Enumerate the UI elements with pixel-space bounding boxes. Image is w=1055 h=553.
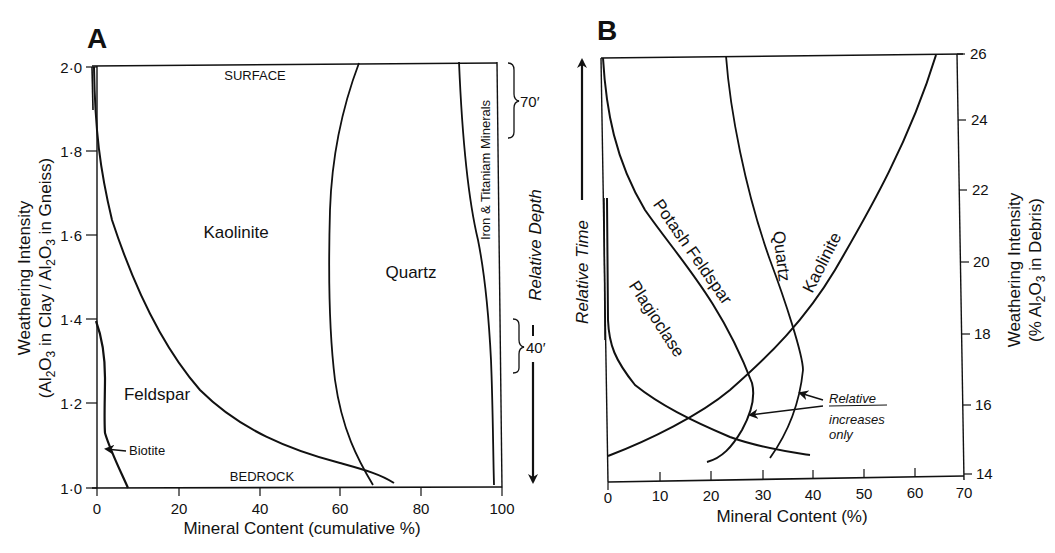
x-tick-label: 30 [755, 486, 772, 503]
y-tick-label: 16 [975, 396, 992, 413]
panel-a-x-axis [92, 487, 502, 488]
y-tick-label: 24 [971, 111, 988, 128]
y-tick-label: 26 [970, 45, 987, 62]
y-axis-title-line1: Weathering Intensity [1005, 192, 1024, 347]
potash-feldspar-label-group: Potash Feldspar [649, 196, 736, 309]
figure-canvas: A 2·0 1·8 1·6 1·4 1·2 1·0 [0, 0, 1055, 553]
plagioclase-label-group: Plagioclase [625, 277, 688, 360]
y-tick-label: 14 [976, 465, 993, 482]
panel-a-x-ticks: 0 20 40 60 80 100 [93, 488, 515, 517]
potash-feldspar-label: Potash Feldspar [649, 196, 736, 309]
y-axis-title-line2: (% Al2O3 in Debris) [1026, 198, 1048, 342]
y-tick-label: 20 [973, 253, 990, 270]
plagioclase-label: Plagioclase [625, 277, 688, 360]
panel-b-top-border [601, 54, 963, 58]
quartz-region-label: Quartz [385, 263, 436, 282]
relative-time-label: Relative Time [573, 220, 592, 324]
kaolinite-region-label: Kaolinite [203, 223, 268, 242]
x-tick-label: 100 [489, 500, 514, 517]
panel-b-x-ticks: 0 10 20 30 40 50 60 70 [604, 468, 973, 506]
panel-a-letter: A [87, 23, 107, 54]
panel-b-series [603, 55, 936, 462]
panel-b-x-axis-title: Mineral Content (%) [716, 507, 867, 526]
feldspar-region-label: Feldspar [124, 385, 190, 404]
lower-brace-icon [513, 319, 524, 373]
surface-label: SURFACE [224, 68, 286, 83]
panel-a-top-border [92, 63, 497, 66]
x-tick-label: 80 [413, 500, 430, 517]
feldspar-kaolinite-boundary [94, 67, 394, 483]
y-tick-label: 1·2 [60, 395, 82, 412]
y-tick-label: 1·4 [60, 311, 82, 328]
panel-a-y-axis-title: Weathering Intensity (Al2O3 in Clay / Al… [15, 158, 58, 398]
panel-a-y-ticks: 2·0 1·8 1·6 1·4 1·2 1·0 [60, 59, 97, 497]
y-tick-label: 2·0 [60, 59, 82, 76]
y-axis-title-line1: Weathering Intensity [15, 200, 34, 355]
annotation-line1: Relative [829, 391, 876, 406]
biotite-boundary [96, 321, 128, 488]
iron-titanium-region-label: Iron & Titaniam Minerals [478, 99, 493, 240]
x-tick-label: 60 [907, 484, 924, 501]
biotite-label: Biotite [129, 443, 165, 458]
iron-titanium-label-group: Iron & Titaniam Minerals [478, 99, 493, 240]
x-tick-label: 0 [93, 500, 101, 517]
lower-bracket-label: 40′ [526, 339, 546, 356]
upper-brace-icon [508, 63, 519, 138]
arrow-to-quartz-icon [800, 393, 823, 400]
y-tick-label: 1·0 [60, 480, 82, 497]
arrow-to-feldspar-icon [750, 406, 823, 415]
relative-depth-label: Relative Depth [526, 189, 545, 301]
x-tick-label: 50 [856, 485, 873, 502]
y-tick-label: 1·6 [60, 227, 82, 244]
quartz-label: Quartz [769, 230, 794, 283]
panel-a-frame [92, 62, 502, 488]
panel-a-right-border [497, 62, 502, 488]
panel-a: A 2·0 1·8 1·6 1·4 1·2 1·0 [15, 23, 546, 538]
x-tick-label: 20 [703, 487, 720, 504]
upper-bracket-label: 70′ [520, 93, 540, 110]
kaolinite-quartz-boundary [329, 63, 373, 485]
panel-b-y-axis-title: Weathering Intensity (% Al2O3 in Debris) [1005, 192, 1048, 347]
relative-increases-annotation: Relative increases only [750, 391, 887, 442]
relative-time-indicator: Relative Time [573, 60, 592, 324]
x-tick-label: 60 [332, 500, 349, 517]
y-tick-label: 18 [974, 325, 991, 342]
x-tick-label: 70 [956, 484, 973, 501]
y-tick-label: 22 [972, 181, 989, 198]
x-tick-label: 10 [652, 487, 669, 504]
quartz-label-group: Quartz [769, 230, 794, 283]
x-tick-label: 40 [252, 500, 269, 517]
panel-a-x-axis-title: Mineral Content (cumulative %) [183, 519, 420, 538]
left-edge-line [92, 67, 93, 110]
panel-b-x-axis [608, 476, 964, 482]
panel-b-letter: B [597, 15, 617, 46]
x-tick-label: 40 [805, 486, 822, 503]
potash-feldspar-curve [603, 58, 753, 462]
panel-b: B 0 10 20 30 40 50 60 70 Mineral Conte [573, 15, 1048, 526]
x-tick-label: 20 [171, 500, 188, 517]
annotation-line3: only [829, 427, 854, 442]
y-tick-label: 1·8 [60, 143, 82, 160]
biotite-arrow-icon [106, 449, 126, 451]
y-axis-title-line2: (Al2O3 in Clay / Al2O3 in Gneiss) [36, 158, 58, 398]
panel-b-right-axis [957, 54, 964, 480]
annotation-line2: increases [829, 412, 885, 427]
x-tick-label: 0 [604, 489, 612, 506]
bedrock-label: BEDROCK [230, 469, 295, 484]
depth-annotations: 70′ 40′ Relative Depth [508, 63, 546, 482]
